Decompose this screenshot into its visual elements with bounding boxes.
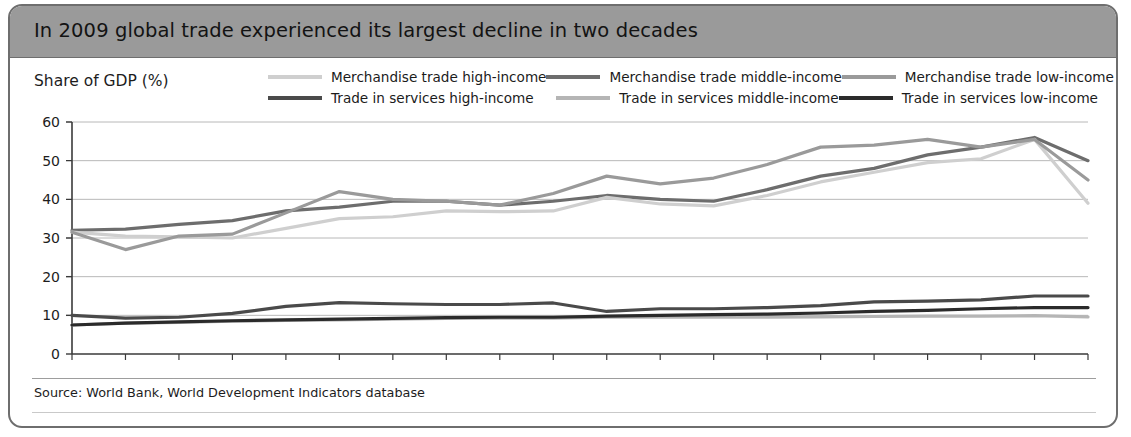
- series-line: [72, 139, 1088, 249]
- y-tick-label: 30: [42, 230, 60, 246]
- legend-label: Trade in services low-income: [902, 90, 1098, 106]
- legend-label: Merchandise trade low-income: [905, 69, 1114, 85]
- y-tick-label: 60: [42, 114, 60, 130]
- y-tick-label: 40: [42, 191, 60, 207]
- legend-label: Merchandise trade high-income: [331, 69, 546, 85]
- legend-swatch-icon: [839, 96, 893, 100]
- y-tick-label: 0: [51, 346, 60, 362]
- plot-area: 0102030405060199019911992199319941995199…: [10, 114, 1118, 364]
- legend-row: Merchandise trade high-incomeMerchandise…: [268, 66, 1098, 87]
- legend-item[interactable]: Merchandise trade low-income: [842, 69, 1114, 85]
- bottom-divider: [32, 412, 1096, 413]
- legend-label: Trade in services middle-income: [619, 90, 838, 106]
- legend-item[interactable]: Trade in services low-income: [839, 90, 1098, 106]
- legend-swatch-icon: [268, 75, 322, 79]
- source-note: Source: World Bank, World Development In…: [34, 385, 425, 400]
- legend-swatch-icon: [556, 96, 610, 100]
- chart-title: In 2009 global trade experienced its lar…: [34, 19, 698, 42]
- legend-swatch-icon: [842, 75, 896, 79]
- y-axis-title: Share of GDP (%): [34, 72, 169, 90]
- legend-item[interactable]: Trade in services middle-income: [556, 90, 838, 106]
- legend-swatch-icon: [546, 75, 600, 79]
- title-bar: In 2009 global trade experienced its lar…: [10, 6, 1116, 58]
- legend-label: Trade in services high-income: [331, 90, 534, 106]
- legend-item[interactable]: Trade in services high-income: [268, 90, 556, 106]
- figure-container: In 2009 global trade experienced its lar…: [8, 4, 1118, 428]
- chart-legend: Merchandise trade high-incomeMerchandise…: [268, 66, 1098, 108]
- legend-item[interactable]: Merchandise trade high-income: [268, 69, 546, 85]
- legend-label: Merchandise trade middle-income: [609, 69, 841, 85]
- line-chart-svg: 0102030405060199019911992199319941995199…: [10, 114, 1118, 364]
- legend-swatch-icon: [268, 96, 322, 100]
- y-tick-label: 20: [42, 269, 60, 285]
- legend-item[interactable]: Merchandise trade middle-income: [546, 69, 841, 85]
- legend-row: Trade in services high-incomeTrade in se…: [268, 87, 1098, 108]
- y-tick-label: 10: [42, 307, 60, 323]
- y-tick-label: 50: [42, 153, 60, 169]
- source-divider: [32, 378, 1096, 379]
